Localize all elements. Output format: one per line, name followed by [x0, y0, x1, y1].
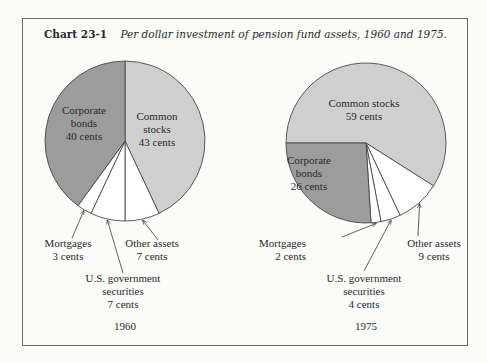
pie-year-label: 1960 — [114, 320, 137, 332]
slice-label-u-s-government-securities: U.S. governmentsecurities4 cents — [327, 272, 402, 310]
label-arrow-u-s-government-securities — [107, 220, 123, 273]
slice-label-other-assets: Other assets7 cents — [125, 237, 178, 262]
pie-year-label: 1975 — [355, 320, 378, 332]
slice-label-mortgages: Mortgages3 cents — [44, 237, 91, 262]
label-arrow-mortgages — [342, 223, 376, 237]
slice-label-u-s-government-securities: U.S. governmentsecurities7 cents — [86, 272, 161, 310]
slice-label-mortgages: Mortgages2 cents — [259, 237, 306, 262]
label-arrow-u-s-government-securities — [364, 220, 391, 271]
pie-chart-1960: Commonstocks43 centsOther assets7 centsU… — [44, 61, 205, 332]
pie-charts: Commonstocks43 centsOther assets7 centsU… — [0, 0, 487, 363]
pie-chart-1975: Common stocks59 centsOther assets9 cents… — [259, 63, 461, 332]
slice-label-other-assets: Other assets9 cents — [407, 237, 460, 262]
label-arrow-mortgages — [72, 211, 84, 238]
label-arrow-other-assets — [418, 204, 420, 236]
